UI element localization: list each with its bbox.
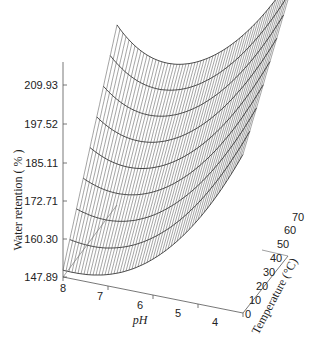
z-tick-label: 185.11 bbox=[25, 157, 58, 169]
y-tick-label: 40 bbox=[270, 252, 282, 264]
z-tick-label: 197.52 bbox=[24, 118, 58, 130]
x-tick-label: 7 bbox=[97, 290, 103, 302]
mesh-line-ph bbox=[228, 0, 282, 179]
x-axis-title: pH bbox=[132, 313, 149, 327]
x-tick-label: 8 bbox=[60, 282, 66, 294]
y-tick-label: 70 bbox=[292, 211, 304, 223]
x-axis-ticks: 87654 bbox=[60, 277, 243, 328]
mesh-line-temp bbox=[63, 154, 243, 275]
z-tick-label: 160.30 bbox=[24, 233, 58, 245]
y-tick-label: 30 bbox=[263, 266, 275, 278]
y-tick-label: 20 bbox=[256, 280, 268, 292]
mesh-line-ph bbox=[243, 0, 297, 154]
surface-chart: 209.93197.52185.11172.71160.30147.89 876… bbox=[0, 0, 310, 344]
y-tick-label: 60 bbox=[284, 224, 296, 236]
y-tick-label: 10 bbox=[249, 294, 261, 306]
x-tick-label: 5 bbox=[175, 307, 181, 319]
z-axis-ticks: 209.93197.52185.11172.71160.30147.89 bbox=[24, 79, 67, 283]
back-axis-line bbox=[63, 205, 117, 277]
mesh-line-ph bbox=[63, 25, 117, 270]
x-tick-label: 4 bbox=[212, 316, 218, 328]
z-tick-label: 172.71 bbox=[24, 195, 58, 207]
z-tick-label: 147.89 bbox=[24, 271, 58, 283]
y-tick-label: 0 bbox=[245, 308, 251, 320]
z-axis-title: Water retention ( % ) bbox=[11, 150, 25, 251]
z-tick-label: 209.93 bbox=[24, 79, 58, 91]
x-tick-label: 6 bbox=[137, 299, 143, 311]
y-tick-label: 50 bbox=[277, 238, 289, 250]
surface-mesh bbox=[63, 0, 297, 275]
